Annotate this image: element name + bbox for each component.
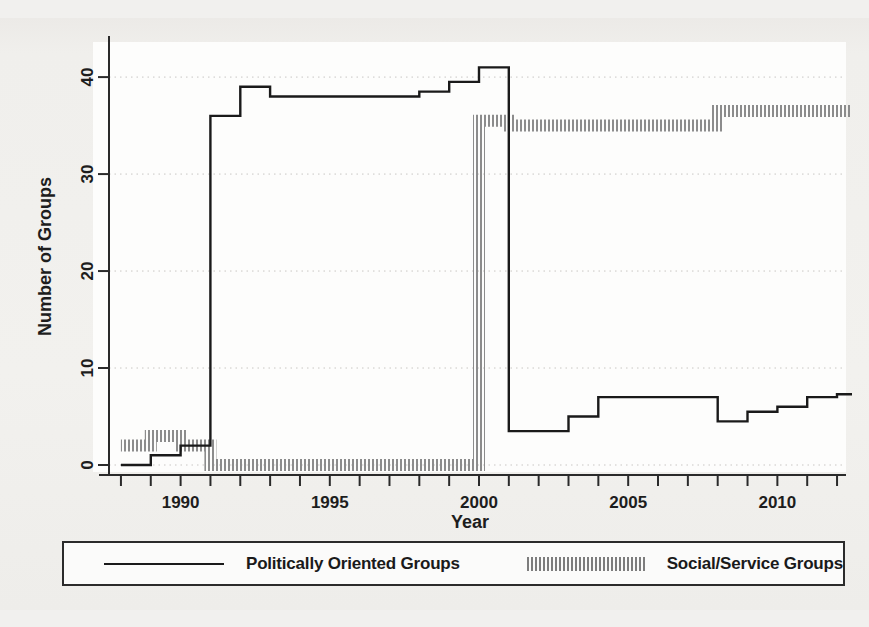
legend-label-politically-oriented-groups: Politically Oriented Groups: [246, 554, 460, 574]
x-tick-label: 1990: [162, 493, 200, 512]
y-tick-label: 10: [78, 359, 97, 378]
y-axis-title: Number of Groups: [35, 177, 55, 336]
x-tick-label: 2000: [460, 493, 498, 512]
x-tick-label: 2010: [758, 493, 796, 512]
legend-label-social-service-groups: Social/Service Groups: [667, 554, 843, 574]
series-social-service-groups: [121, 111, 852, 465]
legend-hatched-band-swatch: [527, 557, 645, 571]
scanned-page: 010203040 19901995200020052010 Number of…: [0, 0, 869, 627]
series-politically-oriented-groups: [121, 67, 852, 465]
x-axis-ticks: [121, 475, 837, 486]
y-tick-label: 40: [78, 68, 97, 87]
legend-solid-line-swatch: [104, 563, 224, 565]
y-tick-label: 30: [78, 165, 97, 184]
x-axis-title: Year: [451, 512, 489, 532]
y-tick-label: 0: [78, 460, 97, 469]
legend-entry-social-service-groups: Social/Service Groups: [489, 554, 843, 574]
x-tick-label: 1995: [311, 493, 349, 512]
chart-legend: Politically Oriented Groups Social/Servi…: [62, 541, 845, 586]
y-axis-ticks: [98, 77, 109, 465]
y-tick-label: 20: [78, 262, 97, 281]
x-tick-labels: 19901995200020052010: [162, 493, 797, 512]
legend-entry-politically-oriented-groups: Politically Oriented Groups: [64, 554, 460, 574]
y-tick-labels: 010203040: [78, 68, 97, 470]
chart-figure: 010203040 19901995200020052010 Number of…: [0, 0, 869, 627]
x-tick-label: 2005: [609, 493, 647, 512]
chart-svg: 010203040 19901995200020052010 Number of…: [0, 0, 869, 627]
